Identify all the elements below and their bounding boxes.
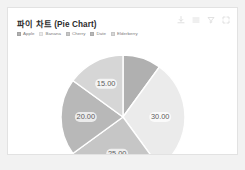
menu-icon[interactable]: [192, 16, 200, 24]
download-icon[interactable]: [177, 16, 185, 24]
filter-icon[interactable]: [207, 16, 215, 24]
legend-item-cherry[interactable]: Cherry: [66, 32, 85, 36]
slice-label: 30.00: [150, 112, 169, 121]
pie-chart-card: 파이 차트 (Pie Chart) Apple Banana: [7, 7, 238, 155]
legend-item-label: Date: [96, 32, 105, 36]
legend-swatch-icon: [90, 32, 94, 36]
pie-chart[interactable]: 30.0025.0020.0015.00: [48, 42, 198, 155]
chart-area: 30.0025.0020.0015.00: [8, 42, 237, 155]
legend-item-apple[interactable]: Apple: [17, 32, 34, 36]
legend-item-banana[interactable]: Banana: [39, 32, 60, 36]
legend-item-label: Elderberry: [117, 32, 138, 36]
legend-item-date[interactable]: Date: [90, 32, 105, 36]
slice-label: 20.00: [76, 112, 95, 121]
card-toolbar: [177, 16, 230, 24]
legend-item-elderberry[interactable]: Elderberry: [111, 32, 138, 36]
legend-item-label: Cherry: [72, 32, 85, 36]
chart-legend: Apple Banana Cherry Date Elderberry: [17, 32, 138, 36]
legend-swatch-icon: [66, 32, 70, 36]
legend-item-label: Banana: [45, 32, 60, 36]
screen-root: 파이 차트 (Pie Chart) Apple Banana: [0, 0, 245, 170]
legend-swatch-icon: [17, 32, 21, 36]
legend-swatch-icon: [39, 32, 43, 36]
legend-item-label: Apple: [23, 32, 34, 36]
legend-swatch-icon: [111, 32, 115, 36]
slice-label: 15.00: [96, 79, 115, 88]
slice-label: 25.00: [107, 149, 126, 155]
expand-icon[interactable]: [222, 16, 230, 24]
page-title: 파이 차트 (Pie Chart): [17, 17, 97, 29]
